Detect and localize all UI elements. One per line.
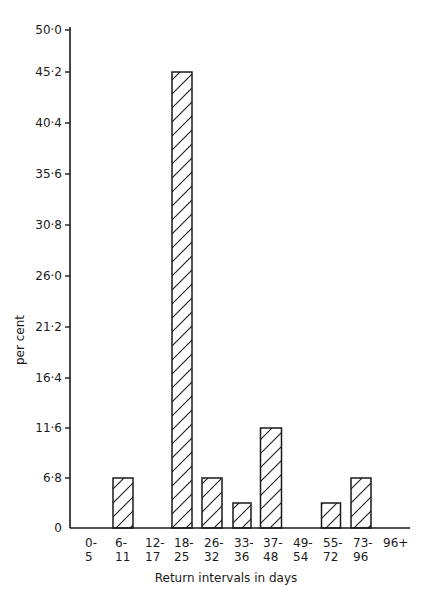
y-tick-label: 16·4 [35, 371, 62, 385]
x-tick-label-bottom: 96 [353, 550, 368, 564]
axis-labels: 0-56-1112-1718-2526-3233-3637-4849-5455-… [13, 315, 408, 585]
x-tick-label-top: 18- [174, 536, 194, 550]
y-tick-label: 11·6 [35, 421, 62, 435]
bar-chart: 06·811·616·421·226·030·835·640·445·250·0… [0, 0, 427, 594]
x-tick-label-bottom: 5 [85, 550, 93, 564]
bars [113, 72, 371, 528]
y-tick-label: 21·2 [35, 320, 62, 334]
x-tick-label-bottom: 25 [174, 550, 189, 564]
bar-73-96 [351, 478, 371, 528]
bar-33-36 [233, 503, 251, 528]
x-tick-label-bottom: 17 [145, 550, 160, 564]
y-tick-label: 0 [54, 521, 62, 535]
x-axis-title: Return intervals in days [155, 571, 298, 585]
y-tick-label: 45·2 [35, 65, 62, 79]
y-tick-label: 30·8 [35, 218, 62, 232]
x-tick-label-bottom: 36 [234, 550, 249, 564]
bar-55-72 [322, 503, 341, 528]
x-tick-label-bottom: 11 [115, 550, 130, 564]
y-tick-label: 35·6 [35, 167, 62, 181]
x-tick-label-top: 33- [234, 536, 254, 550]
y-tick-label: 40·4 [35, 116, 62, 130]
x-tick-label-bottom: 72 [323, 550, 338, 564]
y-tick-label: 26·0 [35, 269, 62, 283]
x-tick-label-top: 55- [323, 536, 343, 550]
x-tick-label-bottom: 54 [293, 550, 308, 564]
y-tick-label: 50·0 [35, 23, 62, 37]
y-tick-label: 6·8 [43, 471, 62, 485]
x-tick-label-top: 26- [204, 536, 224, 550]
x-tick-label-top: 96+ [383, 536, 408, 550]
y-axis-title: per cent [13, 315, 27, 365]
x-tick-label-bottom: 32 [204, 550, 219, 564]
x-tick-label-top: 73- [353, 536, 373, 550]
bar-37-48 [261, 428, 282, 528]
x-tick-label-top: 37- [263, 536, 283, 550]
x-tick-label-top: 0- [85, 536, 97, 550]
x-tick-label-bottom: 48 [263, 550, 278, 564]
bar-26-32 [202, 478, 222, 528]
bar-6-11 [113, 478, 133, 528]
bar-18-25 [172, 72, 192, 528]
y-axis: 06·811·616·421·226·030·835·640·445·250·0 [35, 23, 70, 535]
x-tick-label-top: 6- [115, 536, 127, 550]
x-tick-label-top: 12- [145, 536, 165, 550]
x-tick-label-top: 49- [293, 536, 313, 550]
